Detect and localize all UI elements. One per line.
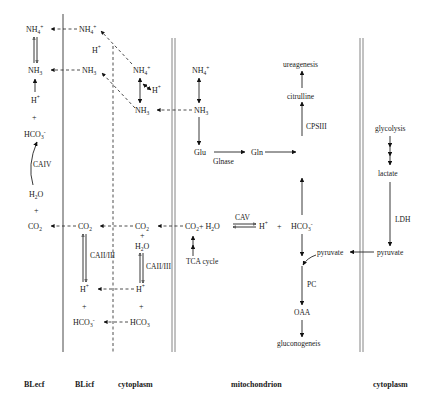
blicf-hco3: HCO3- (73, 317, 95, 328)
mito-hco3: HCO3- (291, 221, 313, 232)
mito-nh4: NH4+ (192, 65, 209, 76)
mito-nh3: NH3 (194, 106, 209, 116)
label-cytoplasm-right: cytoplasm (373, 380, 408, 389)
mito-plus: + (277, 222, 282, 231)
mito-cpsiii: CPSIII (306, 122, 327, 131)
mito-cav: CAV (235, 213, 250, 222)
diagonal-transport-arrow (101, 31, 132, 64)
pyruvate-merge-arrow (303, 255, 316, 265)
cyto-r-pyruvate: pyruvate (377, 248, 404, 257)
label-blecf: BLecf (24, 380, 45, 389)
blecf-hco3: HCO3- (24, 129, 46, 140)
blecf-plus-2: + (34, 206, 39, 215)
cyto-r-glycolysis: glycolysis (375, 124, 405, 133)
cyto-hplus: H+ (136, 283, 145, 294)
cyto-nh4: NH4+ (133, 65, 150, 76)
blicf-ca: CAII/III (90, 251, 115, 260)
mito-co2: CO2+ H2O (185, 222, 220, 232)
blecf-caiv: CAIV (33, 160, 52, 169)
label-cytoplasm-left: cytoplasm (118, 380, 153, 389)
blicf-nh4: NH4+ (79, 24, 96, 35)
cyto-plus-top: + (140, 231, 145, 240)
label-mitochondrion: mitochondrion (231, 380, 282, 389)
cyto-hco3: HCO3 (130, 318, 150, 328)
mito-pyruvate: pyruvate (317, 248, 344, 257)
blecf-plus-1: + (32, 113, 37, 122)
label-blicf: BLicf (75, 380, 94, 389)
blecf-h2o: H2O (29, 190, 44, 200)
cyto-h2o: H2O (135, 242, 150, 252)
mito-hplus: H+ (259, 220, 268, 231)
mito-oaa: OAA (294, 308, 311, 317)
mito-glnase: Glnase (213, 157, 234, 166)
blicf-co2: CO2 (78, 222, 92, 232)
mito-glu: Glu (194, 148, 206, 157)
cyto-ca: CAII/III (146, 262, 171, 271)
proton-release-arrow (143, 84, 151, 90)
cyto-nh3: NH3 (135, 106, 150, 116)
mito-gln: Gln (251, 148, 263, 157)
mito-ureagenesis: ureagenesis (283, 60, 318, 69)
mito-gluconeogenesis: gluconogeneis (277, 339, 320, 348)
diagonal-transport-arrow (102, 73, 135, 108)
blicf-plus: + (82, 302, 87, 311)
cyto-r-ldh: LDH (395, 215, 411, 224)
cyto-r-lactate: lactate (378, 169, 398, 178)
blecf-nh4: NH4+ (26, 24, 43, 35)
cyto-plus: + (139, 302, 144, 311)
blicf-hplus-top: H+ (92, 44, 101, 55)
blicf-hplus: H+ (80, 283, 89, 294)
mito-tca: TCA cycle (186, 257, 219, 266)
blecf-hplus: H+ (31, 94, 40, 105)
mito-citrulline: citrulline (287, 92, 315, 101)
cyto-hplus-side: H+ (152, 84, 161, 95)
blicf-nh3: NH3 (82, 66, 97, 76)
blecf-nh3: NH3 (28, 66, 43, 76)
renal-ammonia-bicarbonate-diagram: NH4+ NH3 H+ + HCO3- CAIV H2O + CO2 NH4+ … (0, 0, 433, 396)
mito-pc: PC (307, 280, 316, 289)
blecf-co2: CO2 (28, 222, 42, 232)
